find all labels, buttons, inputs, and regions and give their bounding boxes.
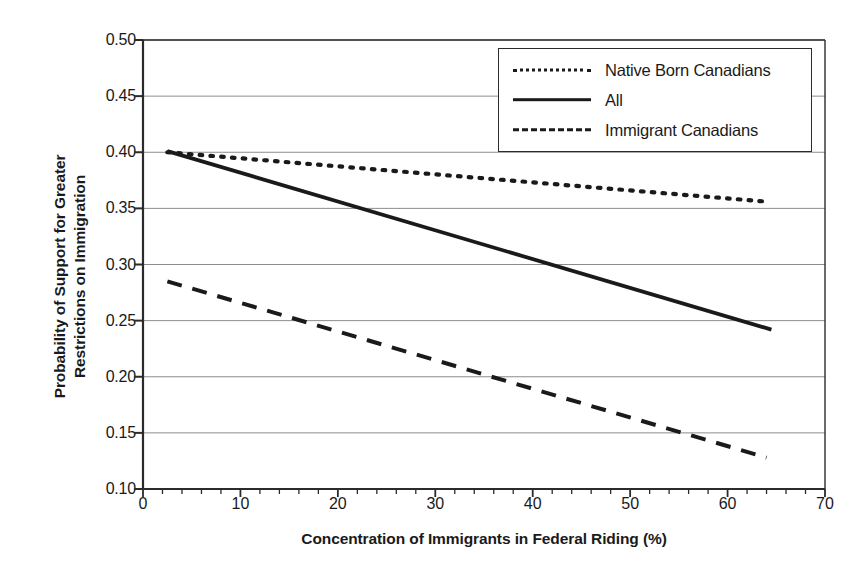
legend-item-label: All xyxy=(605,91,623,110)
x-axis-tick-label: 60 xyxy=(698,496,758,512)
legend-item-label: Native Born Canadians xyxy=(605,61,770,80)
legend-item[interactable]: Native Born Canadians xyxy=(499,55,811,85)
legend-item[interactable]: Immigrant Canadians xyxy=(499,115,811,145)
x-axis-tick-label: 0 xyxy=(113,496,173,512)
data-series-layer xyxy=(167,151,771,457)
x-axis-tick-label: 10 xyxy=(210,496,270,512)
x-axis-tick-label: 40 xyxy=(503,496,563,512)
legend-item[interactable]: All xyxy=(499,85,811,115)
legend-line-swatch-dotted xyxy=(513,63,591,77)
legend-item-label: Immigrant Canadians xyxy=(605,121,758,140)
legend-line-swatch-dashed xyxy=(513,123,591,137)
x-axis-title: Concentration of Immigrants in Federal R… xyxy=(143,530,825,548)
chart-figure: Probability of Support for Greater Restr… xyxy=(0,0,854,582)
chart-legend: Native Born CanadiansAllImmigrant Canadi… xyxy=(498,48,812,152)
x-axis-tick-label: 70 xyxy=(795,496,854,512)
legend-line-swatch-solid xyxy=(513,93,591,107)
series-line-dashed xyxy=(167,281,766,457)
x-axis-tick-labels: 010203040506070 xyxy=(0,496,854,526)
x-axis-tick-label: 30 xyxy=(405,496,465,512)
x-axis-tick-label: 20 xyxy=(308,496,368,512)
x-axis-tick-label: 50 xyxy=(600,496,660,512)
